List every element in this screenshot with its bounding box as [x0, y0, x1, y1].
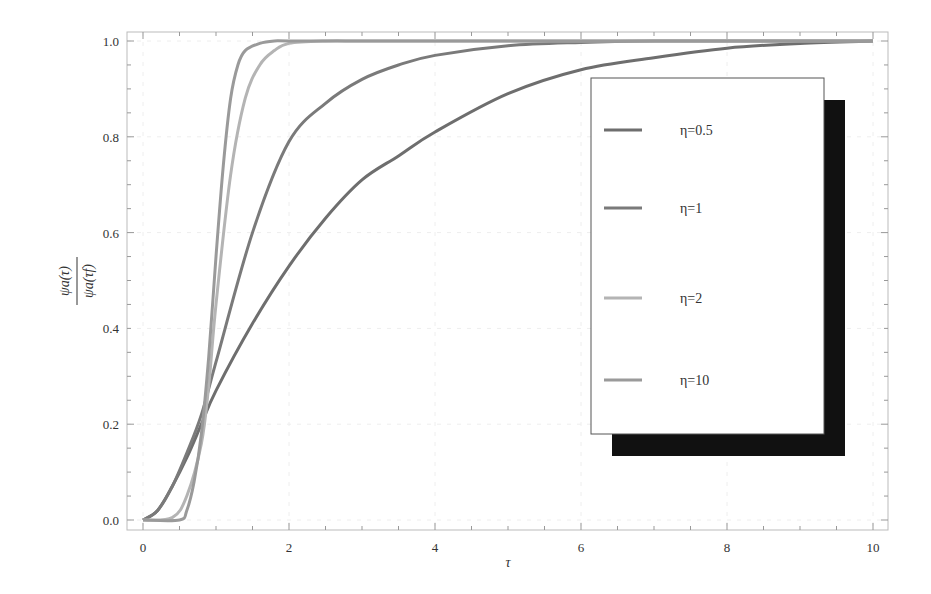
- y-label-denominator: ψa(τf): [81, 264, 97, 298]
- y-tick-label: 0.4: [103, 321, 120, 336]
- y-tick-label: 1.0: [103, 34, 119, 49]
- y-tick-label: 0.2: [103, 417, 119, 432]
- legend: η=0.5η=1η=2η=10: [591, 78, 845, 456]
- x-tick-label: 6: [578, 540, 585, 555]
- x-tick-label: 0: [140, 540, 147, 555]
- x-tick-label: 2: [286, 540, 293, 555]
- legend-label: η=10: [680, 373, 709, 388]
- x-axis-label: τ: [505, 555, 511, 570]
- y-tick-label: 0.8: [103, 130, 119, 145]
- x-tick-label: 4: [432, 540, 439, 555]
- y-tick-label: 0.6: [103, 226, 120, 241]
- legend-label: η=0.5: [680, 123, 713, 138]
- x-tick-label: 8: [724, 540, 731, 555]
- line-chart: 02468100.00.20.40.60.81.0 η=0.5η=1η=2η=1…: [0, 0, 931, 594]
- legend-label: η=2: [680, 291, 702, 306]
- legend-label: η=1: [680, 201, 702, 216]
- y-axis-label: ψa(τ) ψa(τf): [57, 257, 97, 305]
- y-label-numerator: ψa(τ): [57, 266, 73, 296]
- y-tick-label: 0.0: [103, 513, 119, 528]
- x-tick-label: 10: [867, 540, 880, 555]
